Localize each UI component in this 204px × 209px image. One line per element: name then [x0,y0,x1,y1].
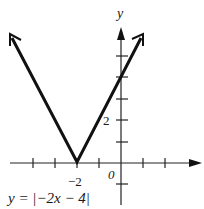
y-tick-label-2: 2 [103,113,110,128]
x-axis-arrow-icon [189,159,202,167]
y-axis-arrow-icon [117,27,125,40]
y-axis-label: y [115,6,124,21]
absolute-value-graph: y 2 −2 0 y = |−2x − 4| [0,0,204,209]
origin-label: 0 [108,167,115,182]
equation-label: y = |−2x − 4| [6,190,90,206]
x-tick-label-neg2: −2 [68,174,82,189]
